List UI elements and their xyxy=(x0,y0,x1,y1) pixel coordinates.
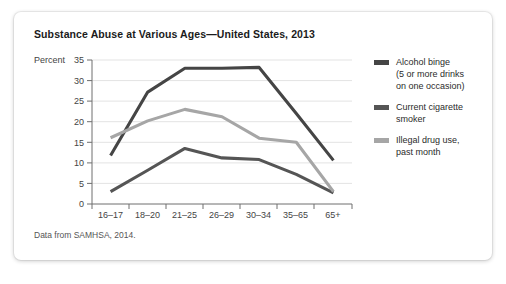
y-tick-label-5: 5 xyxy=(79,179,84,189)
x-tick-label-21-25: 21–25 xyxy=(172,210,197,220)
y-tick-label-0: 0 xyxy=(79,199,84,209)
legend-swatch-illegal-drug-use xyxy=(374,138,389,143)
legend-label-drug-line1: Illegal drug use, xyxy=(396,135,460,145)
y-tick-label-15: 15 xyxy=(74,138,84,148)
series-lines xyxy=(111,67,334,192)
x-tick-label-18-20: 18–20 xyxy=(135,210,160,220)
legend-label-drug-line2: past month xyxy=(396,147,441,157)
legend-label-alcohol-line3: on one occasion) xyxy=(396,81,465,91)
y-axis: 35 30 25 20 15 10 5 0 Percent xyxy=(34,55,92,209)
x-tick-label-65-plus: 65+ xyxy=(325,210,340,220)
x-tick-label-35-65: 35–65 xyxy=(283,210,308,220)
chart-plot-area: 35 30 25 20 15 10 5 0 Percent xyxy=(34,46,474,226)
y-tick-label-20: 20 xyxy=(74,117,84,127)
line-chart: 35 30 25 20 15 10 5 0 Percent xyxy=(34,46,474,226)
figure-card: Substance Abuse at Various Ages—United S… xyxy=(14,12,492,260)
source-note: Data from SAMHSA, 2014. xyxy=(34,230,136,240)
y-tick-label-25: 25 xyxy=(74,96,84,106)
x-axis: 16–17 18–20 21–25 26–29 30–34 35–65 65+ … xyxy=(92,204,352,226)
x-tick-label-30-34: 30–34 xyxy=(246,210,271,220)
page-title: Substance Abuse at Various Ages—United S… xyxy=(34,28,315,40)
series-line-current-cigarette-smoker xyxy=(111,148,334,192)
legend-label-alcohol-line2: (5 or more drinks xyxy=(396,69,465,79)
legend-label-cigarette-line1: Current cigarette xyxy=(396,102,463,112)
legend-label-alcohol-line1: Alcohol binge xyxy=(396,57,450,67)
y-axis-title: Percent xyxy=(34,55,66,65)
y-tick-label-10: 10 xyxy=(74,158,84,168)
legend-label-cigarette-line2: smoker xyxy=(396,114,426,124)
y-tick-label-30: 30 xyxy=(74,76,84,86)
x-tick-label-16-17: 16–17 xyxy=(98,210,123,220)
x-tick-label-26-29: 26–29 xyxy=(209,210,234,220)
y-tick-label-35: 35 xyxy=(74,55,84,65)
legend-swatch-current-cigarette-smoker xyxy=(374,105,389,110)
chart-legend: Alcohol binge (5 or more drinks on one o… xyxy=(374,57,465,157)
legend-swatch-alcohol-binge xyxy=(374,60,389,65)
